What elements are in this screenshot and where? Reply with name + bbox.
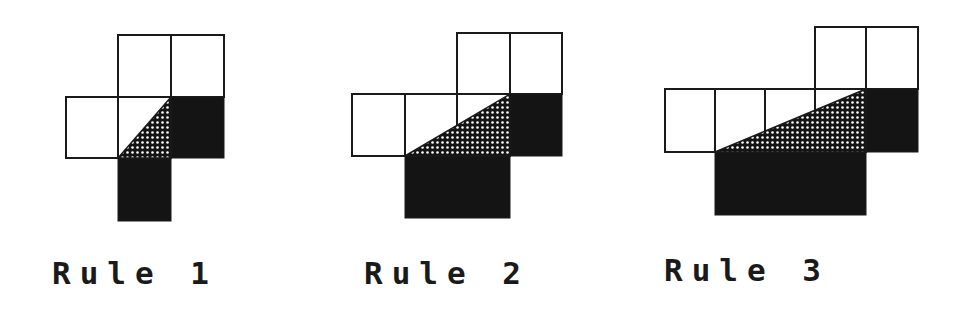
black-cell xyxy=(510,94,562,156)
rule-3-label: Rule 3 xyxy=(664,255,830,286)
black-cell xyxy=(118,158,171,221)
rule-3-diagram xyxy=(665,27,918,215)
rule-1-label: Rule 1 xyxy=(52,258,218,289)
white-cell xyxy=(171,35,224,97)
white-cell xyxy=(352,94,405,156)
rule-2-label: Rule 2 xyxy=(364,258,530,289)
rule-2-diagram xyxy=(352,33,562,218)
black-cell xyxy=(715,152,866,215)
black-cell xyxy=(405,156,510,218)
white-cell xyxy=(66,97,118,158)
white-cell xyxy=(118,35,171,97)
white-cell xyxy=(665,89,715,152)
white-cell xyxy=(815,27,866,89)
black-cell xyxy=(866,89,918,152)
rule-1-diagram xyxy=(66,35,224,221)
white-cell xyxy=(457,33,510,94)
white-cell xyxy=(866,27,918,89)
white-cell xyxy=(510,33,562,94)
black-cell xyxy=(171,97,224,158)
